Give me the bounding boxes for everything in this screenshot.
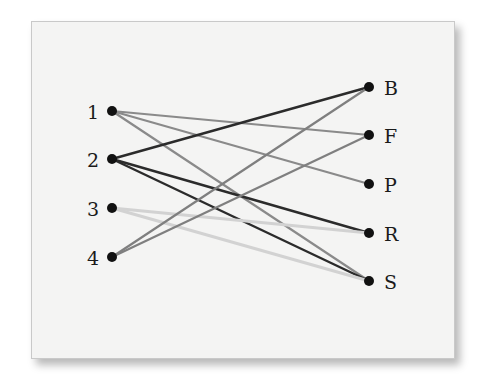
node-label-S: S — [384, 271, 397, 293]
node-label-2: 2 — [87, 149, 99, 171]
node-R — [364, 228, 374, 238]
node-F — [364, 130, 374, 140]
node-label-F: F — [384, 125, 397, 147]
node-label-P: P — [384, 174, 397, 196]
nodes-layer — [107, 82, 374, 286]
node-4 — [107, 252, 117, 262]
edge-4-F — [112, 135, 369, 257]
node-B — [364, 82, 374, 92]
node-3 — [107, 203, 117, 213]
node-label-3: 3 — [87, 198, 99, 220]
node-1 — [107, 106, 117, 116]
edges-layer — [112, 87, 369, 281]
node-S — [364, 276, 374, 286]
node-label-1: 1 — [87, 101, 99, 123]
figure-stage: 1234BFPRS — [0, 0, 482, 384]
node-label-R: R — [384, 223, 399, 245]
node-label-4: 4 — [87, 247, 99, 269]
labels-layer: 1234BFPRS — [87, 77, 399, 293]
node-2 — [107, 154, 117, 164]
node-P — [364, 179, 374, 189]
node-label-B: B — [384, 77, 398, 99]
bipartite-graph: 1234BFPRS — [0, 0, 482, 384]
